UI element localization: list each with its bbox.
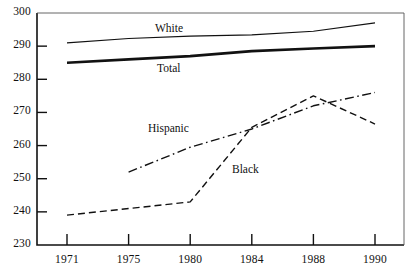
x-tick-label: 1975 xyxy=(107,253,151,265)
x-tick-label: 1980 xyxy=(168,253,212,265)
series-line-white xyxy=(67,23,375,43)
series-label-hispanic: Hispanic xyxy=(148,122,189,134)
y-tick-label: 250 xyxy=(1,171,31,183)
chart-canvas xyxy=(0,0,417,274)
y-tick-label: 240 xyxy=(1,204,31,216)
series-lines xyxy=(67,23,375,215)
x-tick-label: 1984 xyxy=(230,253,274,265)
y-tick-label: 260 xyxy=(1,138,31,150)
series-line-black xyxy=(67,96,375,215)
line-chart: 230240250260270280290300 197119751980198… xyxy=(0,0,417,274)
axis-ticks xyxy=(37,46,375,245)
y-tick-label: 300 xyxy=(1,5,31,17)
y-tick-label: 230 xyxy=(1,237,31,249)
x-tick-label: 1988 xyxy=(291,253,335,265)
y-tick-label: 270 xyxy=(1,104,31,116)
x-tick-label: 1971 xyxy=(45,253,89,265)
series-line-total xyxy=(67,46,375,63)
y-tick-label: 290 xyxy=(1,38,31,50)
series-label-white: White xyxy=(155,22,183,34)
series-label-black: Black xyxy=(232,163,259,175)
series-label-total: Total xyxy=(157,62,180,74)
x-tick-label: 1990 xyxy=(353,253,397,265)
y-tick-label: 280 xyxy=(1,71,31,83)
